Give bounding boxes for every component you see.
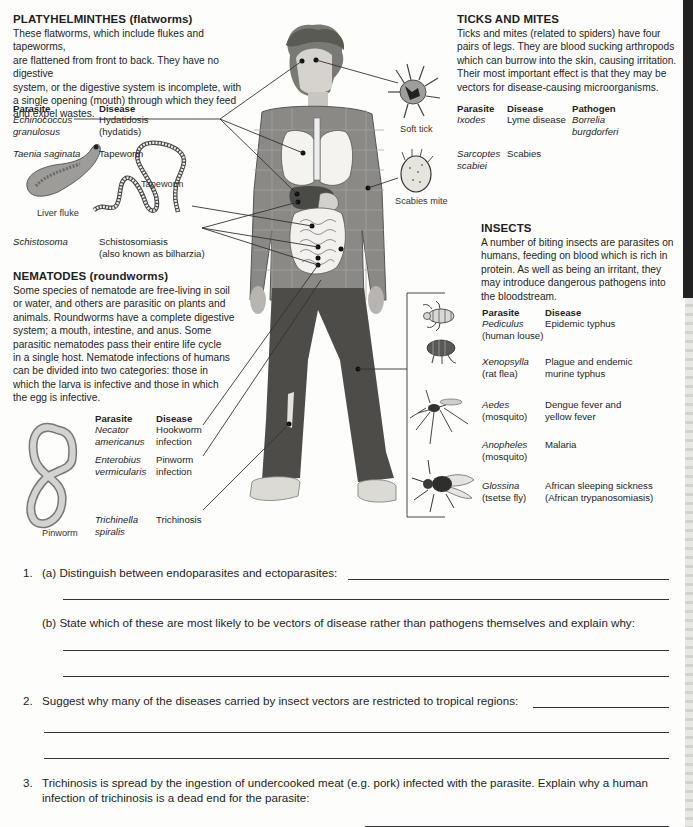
description-line: Their most important effect is that they…	[457, 67, 687, 80]
parasite-genus: Glossina	[482, 480, 526, 492]
disease-line: Hookworm	[156, 424, 202, 436]
parasite-common-name: (tsetse fly)	[482, 492, 526, 504]
disease-name: Malaria	[545, 439, 576, 451]
disease-name: Plague and endemic murine typhus	[545, 356, 632, 379]
louse-illustration	[423, 301, 454, 331]
description-line: Some species of nematode are free-living…	[13, 284, 243, 297]
description-line: or water, and others are parasitic on pl…	[13, 297, 243, 310]
insects-description: A number of biting insects are parasites…	[481, 236, 691, 303]
disease-name: Epidemic typhus	[545, 318, 615, 330]
description-line: which can burrow into the skin, causing …	[457, 54, 687, 67]
parasite-name: Pediculus (human louse)	[482, 318, 543, 341]
parasite-name: Echinococcus granulosus	[13, 114, 72, 137]
parasite-common-name: (human louse)	[482, 330, 543, 342]
pinworm-illustration	[31, 428, 73, 524]
disease-line: Plague and endemic	[545, 356, 632, 368]
disease-line: (hydatids)	[99, 126, 149, 138]
ticks-mites-heading: TICKS AND MITES	[457, 13, 559, 25]
description-line: the egg is infective.	[13, 391, 243, 404]
description-line: humans, feeding on blood which is rich i…	[481, 249, 691, 262]
disease-name: African sleeping sickness (African trypa…	[545, 480, 653, 503]
answer-line-2[interactable]	[533, 707, 669, 708]
parasite-species: vermicularis	[95, 466, 146, 478]
description-line: can be divided into two categories: thos…	[13, 364, 243, 377]
parasite-name: Sarcoptes scabiei	[457, 148, 500, 171]
parasite-genus: Enterobius	[95, 454, 146, 466]
disease-line: (African trypanosomiasis)	[545, 492, 653, 504]
answer-line-1b[interactable]	[63, 676, 669, 677]
disease-name: Trichinosis	[156, 514, 202, 526]
parasite-genus: Sarcoptes	[457, 148, 500, 160]
nematodes-description: Some species of nematode are free-living…	[13, 284, 243, 405]
parasite-name: Aedes (mosquito)	[482, 399, 527, 422]
pathogen-genus: Borrelia	[572, 114, 618, 126]
description-line: These flatworms, which include flukes an…	[13, 27, 253, 54]
description-line: may introduce dangerous pathogens into	[481, 276, 691, 289]
flea-illustration	[427, 340, 456, 364]
answer-line-1b[interactable]	[63, 650, 669, 651]
question-1a-text: (a) Distinguish between endoparasites an…	[42, 566, 337, 579]
column-header-parasite: Parasite	[13, 103, 50, 115]
question-2-number: 2.	[23, 694, 33, 707]
disease-name: Pinworm infection	[156, 454, 193, 477]
disease-line: Pinworm	[156, 454, 193, 466]
question-1-number: 1.	[23, 566, 33, 579]
column-header-disease: Disease	[99, 103, 135, 115]
disease-line: Dengue fever and	[545, 399, 621, 411]
parasite-name: Anopheles (mosquito)	[482, 439, 527, 462]
parasite-name: Necator americanus	[95, 424, 145, 447]
parasite-species: scabiei	[457, 160, 500, 172]
column-header-parasite: Parasite	[482, 307, 519, 319]
tsetse-fly-illustration	[412, 460, 474, 512]
disease-line: infection	[156, 436, 202, 448]
pinworm-caption: Pinworm	[42, 528, 78, 538]
column-header-disease: Disease	[156, 413, 192, 425]
description-line: vectors for disease-causing microorganis…	[457, 81, 687, 94]
parasite-name: Glossina (tsetse fly)	[482, 480, 526, 503]
parasite-common-name: (mosquito)	[482, 451, 527, 463]
disease-name: Lyme disease	[507, 114, 566, 126]
description-line: system; a mouth, intestine, and anus. So…	[13, 324, 243, 337]
question-3-number: 3.	[23, 776, 33, 789]
parasite-species: americanus	[95, 436, 145, 448]
description-line: in a single host. Nematode infections of…	[13, 351, 243, 364]
answer-line-2[interactable]	[44, 732, 669, 733]
answer-line-2[interactable]	[44, 758, 669, 759]
ticks-mites-description: Ticks and mites (related to spiders) hav…	[457, 27, 687, 94]
parasite-genus: Aedes	[482, 399, 527, 411]
soft-tick-illustration	[388, 64, 440, 118]
column-header-disease: Disease	[507, 103, 543, 115]
disease-name: Scabies	[507, 148, 541, 160]
disease-name: Schistosomiasis (also known as bilharzia…	[99, 236, 205, 259]
description-line: A number of biting insects are parasites…	[481, 236, 691, 249]
disease-name: Hydatidosis (hydatids)	[99, 114, 149, 137]
question-3-text-line-2: infection of trichinosis is a dead end f…	[42, 791, 309, 804]
parasite-name: Enterobius vermicularis	[95, 454, 146, 477]
answer-line-1a[interactable]	[63, 599, 669, 600]
liver-fluke-caption: Liver fluke	[37, 208, 79, 218]
description-line: parasitic nematodes pass their entire li…	[13, 338, 243, 351]
parasite-name: Schistosoma	[13, 236, 68, 248]
parasite-genus: Trichinella	[95, 514, 138, 526]
disease-line: murine typhus	[545, 368, 632, 380]
parasite-genus: Xenopsylla	[482, 356, 529, 368]
human-figure-illustration	[250, 24, 396, 502]
parasite-name: Xenopsylla (rat flea)	[482, 356, 529, 379]
question-2-text: Suggest why many of the diseases carried…	[42, 694, 518, 707]
description-line: system, or the digestive system is incom…	[13, 81, 253, 94]
column-header-parasite: Parasite	[457, 103, 494, 115]
mosquito-illustration	[410, 390, 468, 444]
answer-line-1a[interactable]	[348, 579, 669, 580]
disease-line: Schistosomiasis	[99, 236, 205, 248]
disease-line: infection	[156, 466, 193, 478]
pathogen-name: Borrelia burgdorferi	[572, 114, 618, 137]
description-line: pairs of legs. They are blood sucking ar…	[457, 40, 687, 53]
scabies-mite-caption: Scabies mite	[395, 196, 448, 206]
disease-line: (also known as bilharzia)	[99, 248, 205, 260]
scabies-mite-illustration	[401, 149, 433, 192]
parasite-genus: Echinococcus	[13, 114, 72, 126]
parasite-species: granulosus	[13, 126, 72, 138]
description-line: which the larva is infective and those i…	[13, 378, 243, 391]
parasite-common-name: (mosquito)	[482, 411, 527, 423]
parasite-species: spiralis	[95, 526, 138, 538]
